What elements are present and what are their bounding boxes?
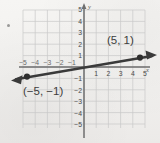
x-tick-labels-positive: 1 2 3 4 5 (94, 70, 147, 77)
coordinate-plane: y x 1 2 3 4 5 −5 −4 −3 −2 −1 5 4 3 2 1 −… (0, 0, 160, 143)
y-tick-2: 2 (78, 41, 82, 48)
graph-canvas: y x 1 2 3 4 5 −5 −4 −3 −2 −1 5 4 3 2 1 −… (0, 0, 160, 143)
y-tick-neg1: −1 (74, 75, 82, 82)
x-tick-1: 1 (94, 70, 98, 77)
y-tick-labels-positive: 5 4 3 2 1 (78, 6, 82, 59)
label-point-lower-left: (−5, −1) (23, 85, 63, 97)
x-tick-5: 5 (143, 70, 147, 77)
y-tick-5: 5 (78, 6, 82, 13)
y-tick-4: 4 (78, 18, 82, 25)
x-tick-neg3: −3 (44, 59, 52, 66)
line-arrow-right (146, 51, 158, 60)
point-marker-neg5-neg1 (24, 74, 30, 80)
line-arrow-left (11, 75, 23, 84)
x-tick-labels-negative: −5 −4 −3 −2 −1 (19, 59, 76, 66)
y-tick-labels-negative: −1 −2 −3 −4 −5 (74, 75, 82, 128)
x-tick-neg2: −2 (56, 59, 64, 66)
x-tick-3: 3 (119, 70, 123, 77)
y-tick-neg2: −2 (74, 87, 82, 94)
y-axis-arrow (82, 3, 87, 9)
x-tick-neg5: −5 (19, 59, 27, 66)
y-tick-neg3: −3 (74, 98, 82, 105)
label-point-upper-right: (5, 1) (107, 34, 134, 46)
x-tick-4: 4 (131, 70, 135, 77)
y-tick-3: 3 (78, 29, 82, 36)
x-tick-neg4: −4 (31, 59, 39, 66)
point-marker-5-1 (137, 55, 143, 61)
y-axis-label: y (87, 3, 91, 10)
y-tick-neg5: −5 (74, 121, 82, 128)
x-tick-2: 2 (107, 70, 111, 77)
x-tick-neg1: −1 (68, 59, 76, 66)
y-tick-1: 1 (78, 52, 82, 59)
y-tick-neg4: −4 (74, 110, 82, 117)
